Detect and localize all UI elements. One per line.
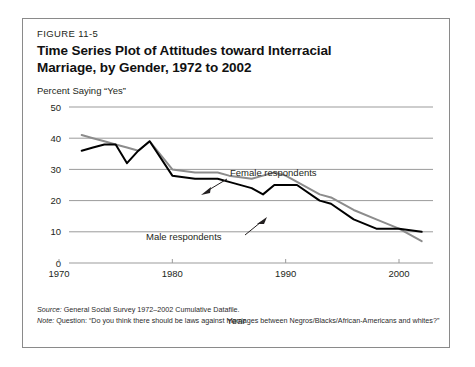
x-tick-label: 1970 bbox=[48, 268, 69, 279]
series-lines-group bbox=[82, 135, 422, 241]
y-tick-label: 10 bbox=[50, 226, 61, 237]
figure-container: FIGURE 11-5 Time Series Plot of Attitude… bbox=[22, 18, 450, 348]
y-tick-label: 20 bbox=[50, 195, 61, 206]
footnote-note-text: Question: “Do you think there should be … bbox=[54, 316, 439, 325]
footnote-note: Note: Question: “Do you think there shou… bbox=[37, 315, 441, 326]
x-tick-label: 1990 bbox=[275, 268, 296, 279]
footnote-note-key: Note: bbox=[37, 316, 54, 325]
y-tick-label: 30 bbox=[50, 164, 61, 175]
x-tick-label: 1980 bbox=[162, 268, 183, 279]
y-tick-label: 50 bbox=[50, 102, 61, 113]
y-tick-label: 0 bbox=[56, 258, 61, 269]
time-series-chart: 01020304050 1970198019902000 Female resp… bbox=[23, 19, 451, 349]
x-tick-label: 2000 bbox=[388, 268, 409, 279]
footnote-source-text: General Social Survey 1972–2002 Cumulati… bbox=[62, 305, 240, 314]
x-axis-group bbox=[59, 259, 433, 263]
y-tick-labels-group: 01020304050 bbox=[50, 102, 61, 269]
series-line-male bbox=[82, 141, 422, 231]
footnote-source: Source: General Social Survey 1972–2002 … bbox=[37, 304, 441, 315]
annotation-female-respondents: Female respondents bbox=[230, 167, 317, 178]
footnote-source-key: Source: bbox=[37, 305, 62, 314]
annotation-arrow-male bbox=[257, 217, 267, 224]
figure-footnotes: Source: General Social Survey 1972–2002 … bbox=[37, 304, 441, 326]
annotation-male-respondents: Male respondents bbox=[146, 231, 222, 242]
chart-plot-area: 01020304050 1970198019902000 Female resp… bbox=[23, 19, 451, 349]
x-tick-labels-group: 1970198019902000 bbox=[48, 268, 409, 279]
annotation-arrow-female bbox=[201, 187, 211, 195]
y-tick-label: 40 bbox=[50, 133, 61, 144]
